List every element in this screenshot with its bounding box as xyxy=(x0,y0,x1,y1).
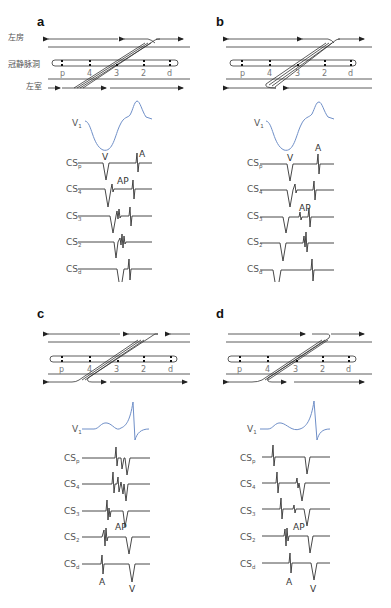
panel-letter-d: d xyxy=(216,306,224,321)
wave-label-ap-c: AP xyxy=(115,522,127,532)
electrode-label-p: p xyxy=(60,69,65,78)
svg-text:CS2: CS2 xyxy=(66,237,82,248)
svg-text:CSd: CSd xyxy=(240,559,256,570)
cs-traces-b xyxy=(260,154,334,282)
electrode-label-d: d xyxy=(346,365,351,374)
svg-text:CS4: CS4 xyxy=(64,479,80,490)
v1-trace-d xyxy=(260,401,330,440)
v1-trace-a xyxy=(85,101,152,150)
wave-label-a-b: A xyxy=(315,143,322,153)
label-left-atrium: 左房 xyxy=(8,32,24,42)
svg-text:CSp: CSp xyxy=(66,158,82,170)
electrode-label-p: p xyxy=(59,365,64,374)
electrode-label-3: 3 xyxy=(293,365,298,374)
electrode-label-4: 4 xyxy=(265,365,270,374)
svg-text:CS2: CS2 xyxy=(64,532,80,543)
svg-text:CSd: CSd xyxy=(247,264,263,275)
svg-text:CS2: CS2 xyxy=(247,237,263,248)
svg-text:CS4: CS4 xyxy=(240,479,256,490)
anatomy-schematic-b xyxy=(226,39,372,88)
svg-text:CSp: CSp xyxy=(64,453,80,465)
wave-label-ap-d: AP xyxy=(293,522,305,532)
wave-label-a-c: A xyxy=(99,577,106,587)
svg-text:CS4: CS4 xyxy=(66,184,82,195)
svg-text:CS2: CS2 xyxy=(240,532,256,543)
electrode-label-d: d xyxy=(348,69,353,78)
svg-text:CS3: CS3 xyxy=(240,506,256,517)
panel-b: b p 4 3 2 d V1 C xyxy=(216,14,372,282)
svg-text:CSd: CSd xyxy=(66,264,82,275)
panel-letter-b: b xyxy=(216,14,224,29)
svg-text:CS3: CS3 xyxy=(64,506,80,517)
svg-text:V1: V1 xyxy=(72,424,82,435)
svg-text:V1: V1 xyxy=(72,118,82,129)
trace-labels-a: V1 CSp CS4 CS3 CS2 CSd xyxy=(66,118,82,275)
electrode-label-3: 3 xyxy=(114,365,119,374)
panel-d: d p 4 3 2 d V1 C xyxy=(216,306,372,594)
panel-a: a 左房 冠静脉洞 左室 p 4 3 2 d xyxy=(8,14,190,282)
v1-trace-b xyxy=(266,102,334,150)
electrode-label-3: 3 xyxy=(295,69,300,78)
panel-letter-c: c xyxy=(37,306,44,321)
electrode-label-2: 2 xyxy=(320,365,325,374)
electrode-label-p: p xyxy=(240,69,245,78)
svg-text:V1: V1 xyxy=(254,118,264,129)
svg-text:CSp: CSp xyxy=(240,453,256,465)
panel-letter-a: a xyxy=(37,14,45,29)
figure-canvas: a 左房 冠静脉洞 左室 p 4 3 2 d xyxy=(0,0,391,608)
wave-label-v-d: V xyxy=(310,584,317,594)
anatomy-schematic-c xyxy=(48,334,190,382)
label-coronary-sinus: 冠静脉洞 xyxy=(8,59,40,69)
wave-label-a-a: A xyxy=(139,149,146,159)
electrode-label-4: 4 xyxy=(87,365,92,374)
wave-label-v-c: V xyxy=(129,584,136,594)
panel-c: c p 4 3 2 d V1 C xyxy=(37,306,190,594)
electrode-label-p: p xyxy=(237,365,242,374)
electrode-label-4: 4 xyxy=(267,69,272,78)
cs-traces-d xyxy=(262,445,330,580)
cs-traces-a xyxy=(78,153,152,282)
electrode-label-d: d xyxy=(167,69,172,78)
svg-text:CSd: CSd xyxy=(64,559,80,570)
electrode-label-4: 4 xyxy=(87,69,92,78)
wave-label-a-d: A xyxy=(286,577,293,587)
anatomy-schematic-a xyxy=(48,39,190,88)
electrode-label-3: 3 xyxy=(114,69,119,78)
cs-traces-c xyxy=(82,447,150,582)
wave-label-ap-b: AP xyxy=(299,203,311,213)
svg-text:V1: V1 xyxy=(247,424,257,435)
svg-text:CS3: CS3 xyxy=(66,211,82,222)
trace-labels-d: V1 CSp CS4 CS3 CS2 CSd xyxy=(240,424,257,570)
trace-labels-b: V1 CSp CS4 CS3 CS2 CSd xyxy=(247,118,264,275)
anatomy-schematic-d xyxy=(226,334,372,382)
wave-label-ap-a: AP xyxy=(117,176,129,186)
wave-label-v-a: V xyxy=(102,152,109,162)
electrode-label-2: 2 xyxy=(141,365,146,374)
electrode-label-2: 2 xyxy=(141,69,146,78)
electrode-label-2: 2 xyxy=(322,69,327,78)
wave-label-v-b: V xyxy=(287,153,294,163)
v1-trace-c xyxy=(82,402,149,440)
trace-labels-c: V1 CSp CS4 CS3 CS2 CSd xyxy=(64,424,82,570)
electrode-label-d: d xyxy=(168,365,173,374)
svg-text:CS3: CS3 xyxy=(247,211,263,222)
svg-text:CS4: CS4 xyxy=(247,184,263,195)
label-left-ventricle: 左室 xyxy=(26,81,42,91)
